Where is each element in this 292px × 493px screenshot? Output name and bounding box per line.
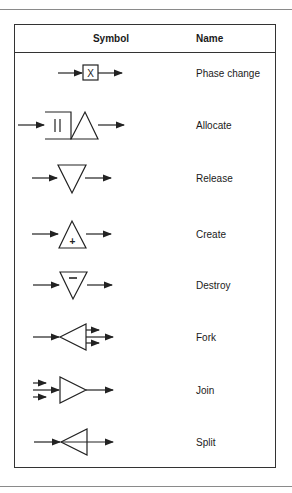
row-name: Split	[196, 437, 215, 448]
top-rule	[0, 9, 292, 10]
row-name: Join	[196, 385, 214, 396]
header-name: Name	[196, 33, 223, 44]
row-name: Destroy	[196, 280, 230, 291]
svg-text:X: X	[87, 68, 94, 79]
fork-icon	[15, 319, 195, 363]
table-row: Fork	[15, 319, 275, 369]
table-row: Allocate	[15, 105, 275, 155]
table-row: Destroy	[15, 271, 275, 321]
row-name: Phase change	[196, 68, 260, 79]
allocate-icon	[15, 105, 195, 149]
symbol-table: Symbol Name X Phase change Allocate	[14, 24, 276, 468]
svg-text:+: +	[70, 236, 76, 247]
table-row: Split	[15, 425, 275, 475]
table-row: Release	[15, 161, 275, 211]
header-symbol: Symbol	[75, 33, 147, 44]
create-icon: +	[15, 217, 195, 261]
phase-change-icon: X	[15, 57, 195, 97]
split-icon	[15, 425, 195, 469]
join-icon	[15, 373, 195, 417]
bottom-rule	[0, 486, 292, 487]
table-header: Symbol Name	[15, 25, 275, 53]
row-name: Release	[196, 173, 233, 184]
table-row: X Phase change	[15, 57, 275, 107]
table-row: Join	[15, 373, 275, 423]
destroy-icon	[15, 271, 195, 315]
row-name: Allocate	[196, 120, 232, 131]
release-icon	[15, 161, 195, 205]
table-row: + Create	[15, 217, 275, 267]
row-name: Create	[196, 229, 226, 240]
row-name: Fork	[196, 332, 216, 343]
